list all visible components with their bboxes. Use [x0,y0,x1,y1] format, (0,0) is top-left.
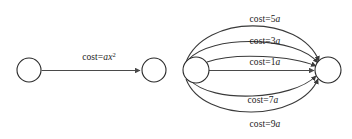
right-graph-target-node[interactable] [315,57,341,83]
right-graph-edge-cost-7a-label: cost=7a [248,95,279,105]
label-var: a [276,36,281,46]
label-superscript: 2 [112,51,115,58]
right-graph-edge-cost-5a-label: cost=5a [250,14,281,24]
graph-svg: cost=ax2 cost=5a cost=3a [0,0,352,139]
label-prefix: cost= [248,95,269,105]
label-var: a [276,57,281,67]
label-prefix: cost= [250,57,271,67]
left-graph-edge-cost-ax2-label: cost=ax2 [82,51,116,63]
label-prefix: cost= [250,36,271,46]
label-var: a [274,95,279,105]
right-graph: cost=5a cost=3a cost=1a cost=7a cost=9a [183,14,341,129]
figure-canvas: cost=ax2 cost=5a cost=3a [0,0,352,139]
right-graph-edge-cost-1a-label: cost=1a [250,57,281,67]
right-graph-edge-cost-3a-label: cost=3a [250,36,281,46]
right-graph-edge-cost-7a[interactable] [190,76,316,96]
label-var: a [276,14,281,24]
label-prefix: cost= [250,14,271,24]
label-prefix: cost= [82,52,103,62]
label-prefix: cost= [250,119,271,129]
right-graph-edge-cost-9a-label: cost=9a [250,119,281,129]
left-graph-source-node[interactable] [17,58,41,82]
left-graph-target-node[interactable] [142,58,166,82]
right-graph-source-node[interactable] [183,57,209,83]
label-var: a [276,119,281,129]
left-graph: cost=ax2 [17,51,166,83]
